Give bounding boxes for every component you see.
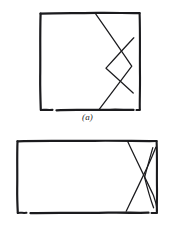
panel-b-box-top-edge xyxy=(18,141,157,142)
panel-a-caption: (a) xyxy=(0,112,175,123)
figure-root: (a) (b) xyxy=(0,0,175,246)
panel-a-box-top-edge xyxy=(41,13,140,14)
figure-panel-b: (b) xyxy=(0,123,175,246)
panel-b-drawing xyxy=(0,123,175,246)
panel-a-box-bottom-edge-main xyxy=(57,110,134,111)
panel-a-box-left-edge xyxy=(40,14,41,110)
panel-a-drawing xyxy=(0,0,175,123)
panel-a-wedge xyxy=(106,38,134,93)
panel-b-box-left-edge xyxy=(17,141,18,213)
panel-b-box-bottom-edge-main xyxy=(31,213,149,214)
panel-a-long-diagonal xyxy=(96,14,132,109)
figure-panel-a: (a) xyxy=(0,0,175,123)
